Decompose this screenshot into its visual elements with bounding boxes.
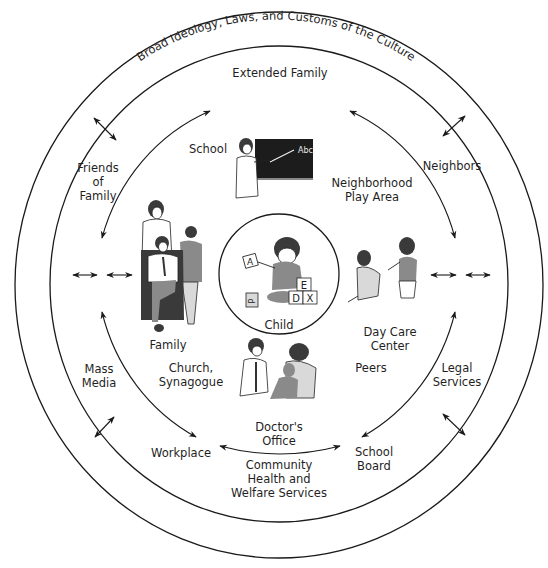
neighbors-label: Neighbors xyxy=(423,159,482,173)
legal-services-label-line1: Legal xyxy=(442,361,473,375)
church-label-line1: Church, xyxy=(169,361,213,375)
church-label-line2: Synagogue xyxy=(159,375,223,389)
block-a-icon: A xyxy=(243,253,259,268)
workplace-label: Workplace xyxy=(151,446,211,460)
family-label: Family xyxy=(149,338,186,352)
svg-text:Abc: Abc xyxy=(298,146,313,155)
child-illustration: A E D X P xyxy=(243,237,317,307)
doctors-office-illustration xyxy=(240,338,316,399)
legal-services-label-line2: Services xyxy=(433,375,482,389)
svg-text:A: A xyxy=(247,257,254,267)
doctors-office-label-line1: Doctor's xyxy=(255,420,303,434)
school-label: School xyxy=(189,142,227,156)
extended-family-label: Extended Family xyxy=(232,66,327,80)
school-board-label-line1: School xyxy=(355,445,393,459)
day-care-label-line1: Day Care xyxy=(364,325,417,339)
block-e-icon: E xyxy=(297,278,311,291)
child-label: Child xyxy=(264,318,293,332)
school-teacher-illustration: Abc xyxy=(236,138,313,198)
mass-media-label-line1: Mass xyxy=(85,362,114,376)
double-arrow-upper-right xyxy=(443,116,465,136)
svg-text:E: E xyxy=(301,280,307,291)
neighborhood-label-line2: Play Area xyxy=(345,190,399,204)
svg-text:P: P xyxy=(248,298,257,303)
double-arrow-lower-left xyxy=(95,417,114,437)
double-arrow-lower-right xyxy=(443,414,465,435)
block-p-icon: P xyxy=(246,293,258,307)
ecological-systems-diagram: Broad Ideology, Laws, and Customs of the… xyxy=(0,0,548,568)
friends-label-line1: Friends xyxy=(77,161,118,175)
friends-label-line2: of xyxy=(92,175,104,189)
day-care-illustration xyxy=(348,237,417,302)
day-care-label-line2: Center xyxy=(371,339,410,353)
block-d-icon: D xyxy=(289,291,303,304)
family-illustration xyxy=(141,200,202,332)
community-label-line1: Community xyxy=(246,458,313,472)
culture-label: Broad Ideology, Laws, and Customs of the… xyxy=(134,9,418,64)
community-label-line2: Health and xyxy=(247,472,310,486)
svg-text:D: D xyxy=(292,293,300,304)
doctors-office-label-line2: Office xyxy=(262,434,296,448)
community-label-line3: Welfare Services xyxy=(231,486,327,500)
arc-upper-right xyxy=(350,111,455,238)
friends-label-line3: Family xyxy=(79,189,116,203)
peers-label: Peers xyxy=(355,361,386,375)
school-board-label-line2: Board xyxy=(357,459,391,473)
block-x-icon: X xyxy=(303,291,317,304)
svg-text:X: X xyxy=(307,293,314,304)
neighborhood-label-line1: Neighborhood xyxy=(332,176,413,190)
mass-media-label-line2: Media xyxy=(82,376,117,390)
